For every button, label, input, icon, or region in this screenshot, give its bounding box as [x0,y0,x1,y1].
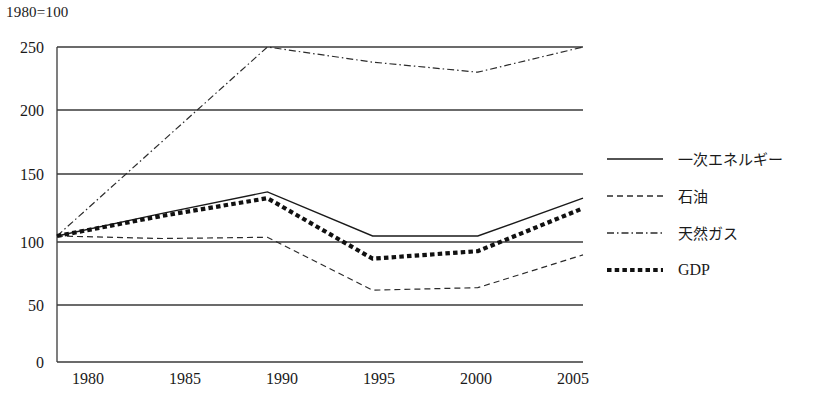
x-tick-2005: 2005 [528,371,618,387]
chart-page: 1980=100 250 200 150 100 50 0 1980 1985 … [0,0,817,418]
legend-item-primary-energy[interactable]: 一次エネルギー [606,140,811,177]
dashed-line-icon [606,189,664,203]
series-line-gdp [57,198,583,258]
chart-legend: 一次エネルギー 石油 天然ガス GDP [606,140,811,288]
series-line-oil [57,236,583,290]
x-tick-2000: 2000 [431,371,521,387]
legend-item-gdp[interactable]: GDP [606,251,811,288]
legend-label-gdp: GDP [664,261,710,279]
series-lines [57,47,583,290]
legend-label-oil: 石油 [664,185,708,206]
dash-dot-line-icon [606,226,664,240]
y-tick-50: 50 [0,298,44,314]
x-tick-1995: 1995 [334,371,424,387]
x-tick-1985: 1985 [140,371,230,387]
gridlines [57,47,583,362]
x-tick-1990: 1990 [237,371,327,387]
thick-dotted-line-icon [606,263,664,277]
x-tick-1980: 1980 [43,371,133,387]
solid-line-icon [606,152,664,166]
y-tick-0: 0 [0,355,44,371]
legend-label-primary-energy: 一次エネルギー [664,148,783,169]
legend-item-oil[interactable]: 石油 [606,177,811,214]
series-line-primary-energy [57,192,583,236]
y-tick-200: 200 [0,103,44,119]
y-tick-150: 150 [0,167,44,183]
series-line-natural-gas [57,47,583,236]
legend-item-natural-gas[interactable]: 天然ガス [606,214,811,251]
y-tick-250: 250 [0,40,44,56]
y-tick-100: 100 [0,235,44,251]
legend-label-natural-gas: 天然ガス [664,222,738,243]
